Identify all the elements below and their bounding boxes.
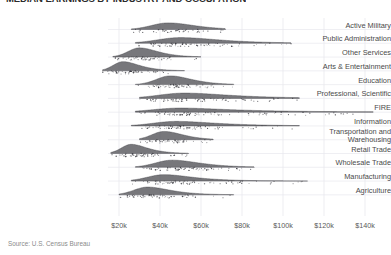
data-point <box>141 197 142 198</box>
data-point <box>135 181 136 182</box>
data-point <box>220 29 221 30</box>
data-point <box>189 167 190 168</box>
data-point <box>175 30 176 31</box>
data-point <box>154 155 155 156</box>
data-point <box>179 99 180 100</box>
data-point <box>200 44 201 45</box>
data-point <box>255 126 256 127</box>
data-point <box>159 46 160 47</box>
data-point <box>197 32 198 33</box>
ridge-row <box>135 38 291 47</box>
data-point <box>146 168 147 169</box>
data-point <box>270 183 271 184</box>
density-area <box>119 187 234 195</box>
data-point <box>145 196 146 197</box>
data-point <box>248 115 249 116</box>
data-point <box>130 59 131 60</box>
data-point <box>206 169 207 170</box>
data-point <box>145 154 146 155</box>
data-point <box>183 182 184 183</box>
data-point <box>168 139 169 140</box>
data-point <box>176 85 177 86</box>
data-point <box>249 183 250 184</box>
data-point <box>210 112 211 113</box>
data-point <box>151 155 152 156</box>
data-point <box>177 114 178 115</box>
data-point <box>238 112 239 113</box>
data-point <box>162 183 163 184</box>
y-axis-label-transportation-and-warehousing: Transportation and Warehousing <box>283 127 391 144</box>
data-point <box>194 128 195 129</box>
data-point <box>128 72 129 73</box>
data-point <box>237 182 238 183</box>
data-point <box>227 44 228 45</box>
data-point <box>125 156 126 157</box>
data-point <box>149 140 150 141</box>
data-point <box>171 128 172 129</box>
data-point <box>155 99 156 100</box>
data-point <box>182 29 183 30</box>
data-point <box>180 128 181 129</box>
data-point <box>298 182 299 183</box>
data-point <box>186 127 187 128</box>
data-point <box>214 114 215 115</box>
data-point <box>153 101 154 102</box>
data-point <box>161 112 162 113</box>
data-point <box>148 195 149 196</box>
data-point <box>181 44 182 45</box>
data-point <box>186 155 187 156</box>
data-point <box>167 114 168 115</box>
data-point <box>175 100 176 101</box>
data-point <box>262 125 263 126</box>
data-point <box>120 197 121 198</box>
data-point <box>209 182 210 183</box>
data-point <box>199 99 200 100</box>
data-point <box>155 56 156 57</box>
data-point <box>202 98 203 99</box>
data-point <box>135 156 136 157</box>
x-axis-tick-80k: $80k <box>234 221 250 230</box>
data-point <box>157 153 158 154</box>
data-point <box>208 169 209 170</box>
data-point <box>156 115 157 116</box>
y-axis-label-arts-entertainment: Arts & Entertainment <box>283 63 391 71</box>
data-point <box>212 84 213 85</box>
data-point <box>186 44 187 45</box>
data-point <box>167 73 168 74</box>
data-point <box>153 195 154 196</box>
data-point <box>197 168 198 169</box>
data-point <box>157 126 158 127</box>
data-point <box>269 101 270 102</box>
density-area <box>103 62 185 71</box>
data-point <box>215 43 216 44</box>
data-point <box>116 72 117 73</box>
data-point <box>120 73 121 74</box>
data-point <box>124 72 125 73</box>
data-point <box>218 169 219 170</box>
data-point <box>139 32 140 33</box>
data-point <box>218 128 219 129</box>
data-point <box>122 57 123 58</box>
data-point <box>231 46 232 47</box>
data-point <box>219 127 220 128</box>
data-point <box>182 85 183 86</box>
data-point <box>143 155 144 156</box>
data-point <box>253 128 254 129</box>
data-point <box>133 57 134 58</box>
data-point <box>169 167 170 168</box>
data-point <box>162 30 163 31</box>
data-point <box>194 126 195 127</box>
data-point <box>168 112 169 113</box>
data-point <box>224 44 225 45</box>
data-point <box>223 86 224 87</box>
data-point <box>155 71 156 72</box>
data-point <box>190 44 191 45</box>
data-point <box>197 45 198 46</box>
data-point <box>205 112 206 113</box>
data-point <box>154 71 155 72</box>
ridge-row <box>113 48 201 61</box>
data-point <box>138 71 139 72</box>
data-point <box>133 194 134 195</box>
data-point <box>260 113 261 114</box>
data-point <box>185 156 186 157</box>
